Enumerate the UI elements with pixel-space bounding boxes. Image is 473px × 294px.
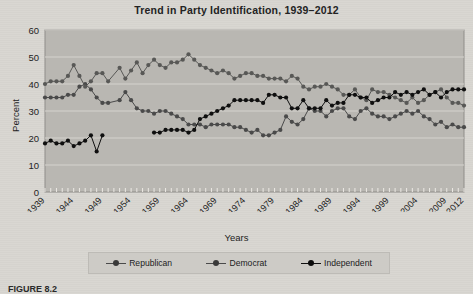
svg-text:10: 10 <box>28 160 39 171</box>
y-axis-label: Percent <box>10 81 21 151</box>
legend-label-republican: Republican <box>129 258 172 268</box>
svg-text:1959: 1959 <box>140 195 161 212</box>
svg-text:20: 20 <box>28 133 39 144</box>
legend-item-independent[interactable]: Independent <box>301 258 372 268</box>
legend-label-independent: Independent <box>324 258 372 268</box>
x-axis-label: Years <box>0 232 473 243</box>
svg-text:1954: 1954 <box>111 195 132 212</box>
svg-text:1994: 1994 <box>341 195 362 212</box>
svg-text:1964: 1964 <box>169 195 190 212</box>
legend-item-democrat[interactable]: Democrat <box>206 258 266 268</box>
legend-marker-republican <box>106 259 126 268</box>
svg-text:1939: 1939 <box>25 195 46 212</box>
chart-plot-area: 0102030405060193919441949195419591964196… <box>0 22 473 212</box>
svg-text:2004: 2004 <box>398 195 419 212</box>
legend-item-republican[interactable]: Republican <box>106 258 172 268</box>
svg-text:1969: 1969 <box>197 195 218 212</box>
figure-container: Trend in Party Identification, 1939–2012… <box>0 0 473 294</box>
chart-svg: 0102030405060193919441949195419591964196… <box>0 22 473 212</box>
legend-label-democrat: Democrat <box>229 258 266 268</box>
svg-text:50: 50 <box>28 52 39 63</box>
svg-text:1984: 1984 <box>283 195 304 212</box>
svg-text:1999: 1999 <box>370 195 391 212</box>
chart-legend: Republican Democrat Independent <box>88 252 390 274</box>
svg-text:1944: 1944 <box>54 195 75 212</box>
svg-text:60: 60 <box>28 25 39 36</box>
svg-text:1974: 1974 <box>226 195 247 212</box>
svg-text:30: 30 <box>28 106 39 117</box>
svg-text:40: 40 <box>28 79 39 90</box>
svg-text:1949: 1949 <box>83 195 104 212</box>
legend-marker-democrat <box>206 259 226 268</box>
chart-title: Trend in Party Identification, 1939–2012 <box>0 4 473 16</box>
svg-text:1979: 1979 <box>255 195 276 212</box>
figure-caption: FIGURE 8.2 <box>8 284 465 294</box>
svg-text:2012: 2012 <box>444 195 465 212</box>
svg-text:1989: 1989 <box>312 195 333 212</box>
legend-marker-independent <box>301 259 321 268</box>
